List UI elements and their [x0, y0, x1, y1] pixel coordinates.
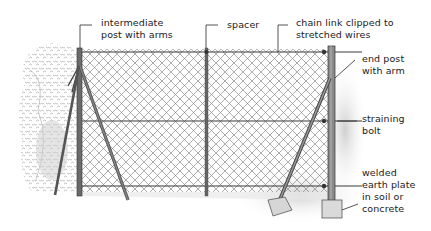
label-end-post: end post with arm [362, 53, 405, 77]
label-spacer: spacer [227, 19, 259, 31]
label-earth-plate: welded earth plate in soil or concrete [362, 167, 416, 215]
spacer [205, 48, 209, 196]
label-straining-bolt: straining bolt [362, 113, 405, 137]
foliage [19, 43, 80, 193]
label-chain-link: chain link clipped to stretched wires [296, 17, 394, 41]
label-intermediate-post: intermediate post with arms [101, 17, 173, 41]
